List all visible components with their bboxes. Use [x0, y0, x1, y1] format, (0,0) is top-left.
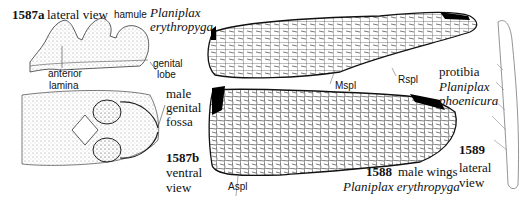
- ventral-view-label-2: view: [166, 181, 191, 195]
- figure-number-1588: 1588: [366, 165, 392, 179]
- rspl-label: Rspl: [398, 74, 418, 85]
- genitalia-lateral-drawing: [30, 18, 156, 72]
- lateral-view-label: lateral view: [47, 8, 108, 22]
- hamule-label: hamule: [114, 9, 147, 20]
- rspl-leader: [392, 68, 396, 76]
- ventral-view-label-1: ventral: [166, 166, 202, 180]
- figure-number-1589: 1589: [459, 143, 485, 157]
- genitalia-ventral-drawing: [22, 90, 165, 165]
- species-caption-1588: Planiplax erythropyga: [343, 180, 460, 194]
- forewing-drawing: [208, 12, 477, 78]
- lateral-view-1589-1: lateral: [459, 161, 491, 175]
- anterior-lamina-label-1: anterior: [48, 68, 82, 79]
- species-1589-line2: phoenicura: [439, 94, 498, 108]
- fossa-label-1: male: [166, 87, 191, 101]
- anterior-lamina-label-2: lamina: [49, 80, 78, 91]
- species-name-line2: erythropyga: [150, 20, 213, 34]
- male-wings-caption: male wings: [398, 165, 458, 179]
- genital-lobe-label-2: lobe: [157, 69, 176, 80]
- fossa-label-2: genital: [166, 101, 201, 115]
- protibia-label: protibia: [439, 65, 479, 79]
- species-name-line1: Planiplax: [150, 6, 201, 20]
- aspl-label: Aspl: [228, 181, 247, 192]
- mspl-label: Mspl: [335, 80, 356, 91]
- figure-number-1587a: 1587a: [12, 8, 45, 22]
- fossa-label-3: fossa: [166, 115, 193, 129]
- lateral-view-1589-2: view: [459, 176, 484, 190]
- figure-number-1587b: 1587b: [166, 151, 199, 165]
- species-1589-line1: Planiplax: [439, 80, 490, 94]
- hindwing-drawing: [209, 86, 456, 175]
- genital-lobe-label-1: genital: [153, 58, 182, 69]
